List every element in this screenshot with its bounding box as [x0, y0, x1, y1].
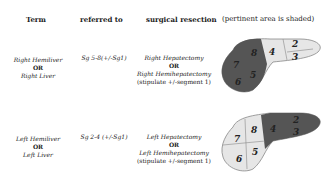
resection-note: (stipulate +/-segment 1) — [132, 78, 216, 86]
segment-label: 8 — [251, 48, 258, 58]
header-diagram: (pertinent area is shaded) — [222, 15, 314, 23]
resection-note: (stipulate +/-segment 1) — [132, 157, 216, 165]
segment-label: 7 — [233, 60, 240, 70]
segment-label: 3 — [293, 127, 299, 137]
segment-label: 5 — [252, 147, 258, 157]
liver-diagram-left: 8 4 2 3 7 5 6 — [215, 105, 327, 178]
segment-label: 4 — [270, 124, 276, 134]
segment-label: 2 — [291, 39, 298, 49]
header-surgical-resection: surgical resection — [146, 15, 217, 24]
segment-label: 6 — [236, 154, 243, 164]
resection-or: OR — [132, 62, 216, 70]
resection-line2: Left Hemihepatectomy — [132, 149, 216, 157]
segment-label: 4 — [269, 47, 275, 57]
segment-label: 7 — [234, 134, 241, 144]
header-referred-to: referred to — [80, 15, 123, 24]
row1-referred-to: Sg 5-8(+/-Sg1) — [74, 54, 134, 62]
term-or: OR — [8, 143, 68, 151]
resection-line2: Right Hemihepatectomy — [132, 70, 216, 78]
term-or: OR — [8, 64, 68, 72]
term-line1: Left Hemiliver — [8, 135, 68, 143]
segment-label: 8 — [251, 125, 258, 135]
segment-label: 5 — [250, 70, 256, 80]
term-line2: Left Liver — [8, 151, 68, 159]
row2-term: Left Hemiliver OR Left Liver — [8, 135, 68, 159]
term-line2: Right Liver — [8, 72, 68, 80]
header-term: Term — [26, 15, 46, 24]
liver-diagram-right: 8 4 2 3 7 5 6 — [215, 30, 327, 95]
row2-referred-to: Sg 2-4 (+/-Sg1) — [74, 133, 134, 141]
row1-term: Right Hemiliver OR Right Liver — [8, 56, 68, 80]
resection-or: OR — [132, 141, 216, 149]
term-line1: Right Hemiliver — [8, 56, 68, 64]
resection-line1: Right Hepatectomy — [132, 54, 216, 62]
segment-label: 3 — [292, 52, 298, 62]
row1-resection: Right Hepatectomy OR Right Hemihepatecto… — [132, 54, 216, 86]
resection-line1: Left Hepatectomy — [132, 133, 216, 141]
row2-resection: Left Hepatectomy OR Left Hemihepatectomy… — [132, 133, 216, 165]
segment-label: 6 — [235, 77, 242, 87]
segment-label: 2 — [292, 115, 299, 125]
